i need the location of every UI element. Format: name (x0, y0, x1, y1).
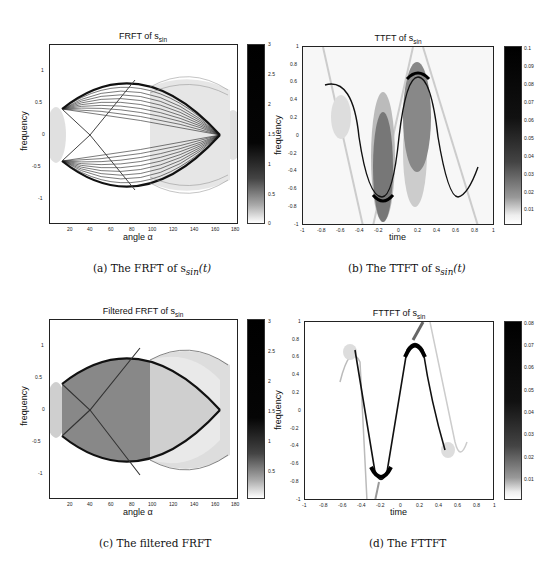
x-tick: -0.6 (338, 502, 347, 508)
plot-title-text: Filtered FRFT of s (103, 306, 175, 316)
y-tick: 0 (298, 407, 301, 413)
y-tick: -1 (294, 221, 298, 227)
colorbar-tick: 0.02 (524, 189, 534, 195)
x-tick: -1 (302, 502, 306, 508)
x-tick: -0.2 (374, 227, 383, 233)
x-tick: 0.6 (452, 227, 459, 233)
y-tick: 0 (42, 406, 45, 412)
x-tick: 20 (67, 226, 73, 232)
y-tick: 0.8 (290, 61, 297, 67)
x-tick: 0.2 (414, 227, 421, 233)
colorbar-tick: 0.03 (524, 171, 534, 177)
colorbar-tick: 3 (268, 41, 271, 47)
colorbar-tick: 2 (268, 101, 271, 107)
colorbar-tick: 0.01 (524, 476, 534, 482)
x-tick: 0.4 (433, 227, 440, 233)
plot-title-d: FTTFT of ssin (304, 308, 494, 320)
y-tick: 0.5 (35, 374, 42, 380)
x-tick: 120 (169, 226, 177, 232)
colorbar-tick: 0.04 (524, 409, 534, 415)
x-tick: -1 (300, 227, 304, 233)
y-tick: -0.4 (290, 442, 299, 448)
x-axis-label: angle α (123, 507, 153, 517)
caption-text: (c) The filtered FRFT (99, 537, 211, 549)
x-axis-label: angle α (123, 232, 153, 242)
caption-suffix: (t) (453, 262, 465, 274)
x-tick: 40 (87, 226, 93, 232)
plot-title-subscript: sin (159, 36, 167, 43)
colorbar-tick: 0.08 (524, 81, 534, 87)
colorbar-tick: 0.09 (524, 63, 534, 69)
colorbar-tick: 0.06 (524, 364, 534, 370)
colorbar-tick: 0.5 (268, 468, 275, 474)
x-tick: -0.8 (317, 227, 326, 233)
caption-c: (c) The filtered FRFT (99, 537, 211, 549)
colorbar-a (247, 44, 265, 224)
ttft-heatmap (302, 46, 494, 225)
caption-text: (b) The TTFT of s (348, 262, 440, 274)
colorbar-b (504, 46, 522, 225)
filtered-frft-heatmap (49, 319, 238, 499)
plot-title-text: FTTFT of s (373, 308, 417, 318)
y-axis-label: frequency (19, 111, 29, 151)
colorbar-d (504, 321, 522, 500)
y-tick: 0.2 (290, 114, 297, 120)
y-tick: -1 (296, 496, 300, 502)
x-tick: 180 (231, 226, 239, 232)
x-tick: 60 (108, 226, 114, 232)
x-tick: -0.8 (319, 502, 328, 508)
colorbar-tick: 0.02 (524, 454, 534, 460)
y-tick: 0.4 (292, 371, 299, 377)
x-tick: 160 (211, 226, 219, 232)
frft-heatmap (49, 44, 238, 224)
y-tick: -1 (38, 470, 42, 476)
plot-title-text: FRFT of s (119, 31, 159, 41)
caption-b: (b) The TTFT of ssin(t) (348, 262, 466, 277)
x-tick: 1 (493, 502, 496, 508)
y-tick: 0.5 (35, 99, 42, 105)
colorbar-tick: 0.04 (524, 153, 534, 159)
fttft-heatmap (304, 321, 494, 500)
y-axis-label: frequency (19, 386, 29, 426)
plot-title-a: FRFT of ssin (49, 31, 237, 43)
x-tick: 0.4 (435, 502, 442, 508)
x-tick: 0.6 (454, 502, 461, 508)
x-tick: 140 (190, 226, 198, 232)
colorbar-tick: 1 (268, 161, 271, 167)
y-tick: -0.2 (290, 425, 299, 431)
colorbar-tick: 1 (268, 438, 271, 444)
colorbar-tick: 3 (268, 318, 271, 324)
x-tick: -0.4 (355, 227, 364, 233)
x-tick: -0.4 (357, 502, 366, 508)
plot-title-b: TTFT of ssin (302, 33, 494, 45)
y-tick: 1 (41, 67, 44, 73)
caption-text: (a) The FRFT of s (93, 262, 186, 274)
y-tick: 0.4 (290, 96, 297, 102)
y-tick: 0.6 (292, 353, 299, 359)
x-axis-label: time (390, 507, 407, 517)
y-tick: -0.6 (288, 185, 297, 191)
x-axis-label: time (389, 232, 406, 242)
colorbar-tick: 0.06 (524, 117, 534, 123)
y-tick: -0.2 (288, 150, 297, 156)
y-tick: 1 (298, 318, 301, 324)
colorbar-tick: 0.08 (524, 320, 534, 326)
y-tick: -0.5 (32, 438, 41, 444)
caption-a: (a) The FRFT of ssin(t) (93, 262, 211, 277)
y-tick: 0 (42, 131, 45, 137)
x-tick: 120 (169, 501, 177, 507)
y-axis-label: frequency (273, 390, 283, 430)
plot-title-subscript: sin (417, 313, 425, 320)
plot-title-subscript: sin (413, 38, 421, 45)
y-tick: -0.8 (290, 478, 299, 484)
caption-text: (d) The FTTFT (369, 537, 446, 549)
x-tick: 0.8 (471, 227, 478, 233)
colorbar-tick: 0.01 (524, 206, 534, 212)
colorbar-tick: 0.1 (524, 45, 531, 51)
colorbar-tick: 2.5 (268, 348, 275, 354)
colorbar-tick: 0.05 (524, 135, 534, 141)
x-tick: 0.8 (473, 502, 480, 508)
y-tick: 0.2 (292, 389, 299, 395)
colorbar-c (247, 319, 265, 499)
colorbar-tick: 0.07 (524, 99, 534, 105)
